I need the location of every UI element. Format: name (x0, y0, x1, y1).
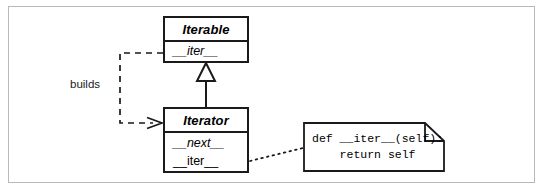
uml-class-iterator-members: __next__ __iter__ (165, 133, 247, 171)
figure-frame (8, 6, 535, 183)
diagram-screenshot: Iterable __iter__ Iterator __next__ __it… (0, 0, 545, 190)
uml-class-iterator[interactable]: Iterator __next__ __iter__ (163, 107, 249, 173)
uml-class-iterable[interactable]: Iterable __iter__ (163, 16, 249, 63)
dependency-label-builds: builds (70, 78, 100, 90)
uml-class-iterator-name: Iterator (165, 109, 247, 131)
uml-member-iterator-next: __next__ (173, 134, 247, 152)
code-note-text: def __iter__(self): return self (312, 131, 443, 162)
code-note[interactable]: def __iter__(self): return self (303, 122, 445, 172)
uml-member-iterable-iter: __iter__ (173, 42, 247, 60)
uml-member-iterator-iter: __iter__ (173, 152, 247, 170)
uml-class-iterable-members: __iter__ (165, 42, 247, 61)
uml-class-iterable-name: Iterable (165, 18, 247, 40)
